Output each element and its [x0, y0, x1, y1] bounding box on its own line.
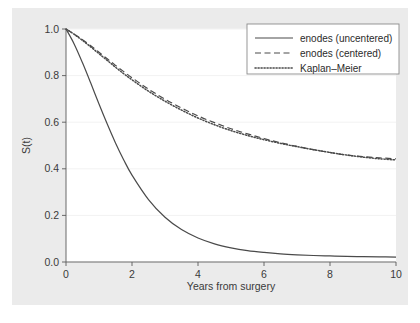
- y-axis-ticks: [62, 29, 66, 262]
- legend-item-label: enodes (uncentered): [300, 33, 392, 44]
- y-axis-tick-label: 1.0: [44, 23, 59, 35]
- x-axis-tick-label: 4: [195, 268, 201, 280]
- x-axis-tick-label: 8: [327, 268, 333, 280]
- legend-item-label: enodes (centered): [300, 48, 381, 59]
- x-axis-title: Years from surgery: [187, 280, 276, 292]
- survival-curve-figure: 0.00.20.40.60.81.0 0246810 S(t) Years fr…: [0, 0, 420, 323]
- x-axis-tick-label: 2: [129, 268, 135, 280]
- y-axis-title: S(t): [20, 137, 32, 154]
- y-axis-tick-label: 0.6: [44, 116, 59, 128]
- legend-item-label: Kaplan–Meier: [300, 63, 362, 74]
- chart-canvas: 0.00.20.40.60.81.0 0246810 S(t) Years fr…: [0, 0, 420, 323]
- x-axis-tick-label: 10: [390, 268, 402, 280]
- x-axis-tick-label: 6: [261, 268, 267, 280]
- x-axis-tick-label: 0: [63, 268, 69, 280]
- y-axis-tick-label: 0.0: [44, 256, 59, 268]
- y-axis-tick-label: 0.8: [44, 69, 59, 81]
- x-axis-ticks: [66, 262, 396, 266]
- legend: enodes (uncentered)enodes (centered)Kapl…: [247, 24, 399, 74]
- y-axis-tick-label: 0.2: [44, 209, 59, 221]
- y-axis-tick-labels: 0.00.20.40.60.81.0: [44, 23, 59, 268]
- y-axis-tick-label: 0.4: [44, 162, 59, 174]
- x-axis-tick-labels: 0246810: [63, 268, 402, 280]
